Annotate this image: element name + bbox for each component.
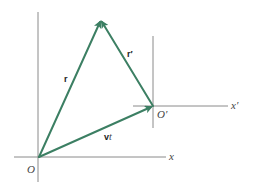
vector-r xyxy=(39,22,100,157)
vectors xyxy=(39,22,153,157)
frame-s-prime-axes xyxy=(133,36,228,128)
origin-o-prime-label: O′ xyxy=(157,108,168,120)
vector-vt xyxy=(39,107,151,157)
vector-r-prime-label: r′ xyxy=(127,49,133,59)
vector-r-prime xyxy=(102,22,153,106)
origin-o-label: O xyxy=(27,163,35,175)
x-axis-label: x xyxy=(168,150,174,162)
frame-s-axes xyxy=(14,12,166,182)
x-prime-axis-label: x′ xyxy=(230,99,239,111)
relative-motion-diagram: O x O′ x′ r r′ vt xyxy=(0,0,254,191)
vector-vt-label: vt xyxy=(104,131,112,142)
vector-r-label: r xyxy=(64,74,68,84)
vt-t-part: t xyxy=(109,131,112,142)
